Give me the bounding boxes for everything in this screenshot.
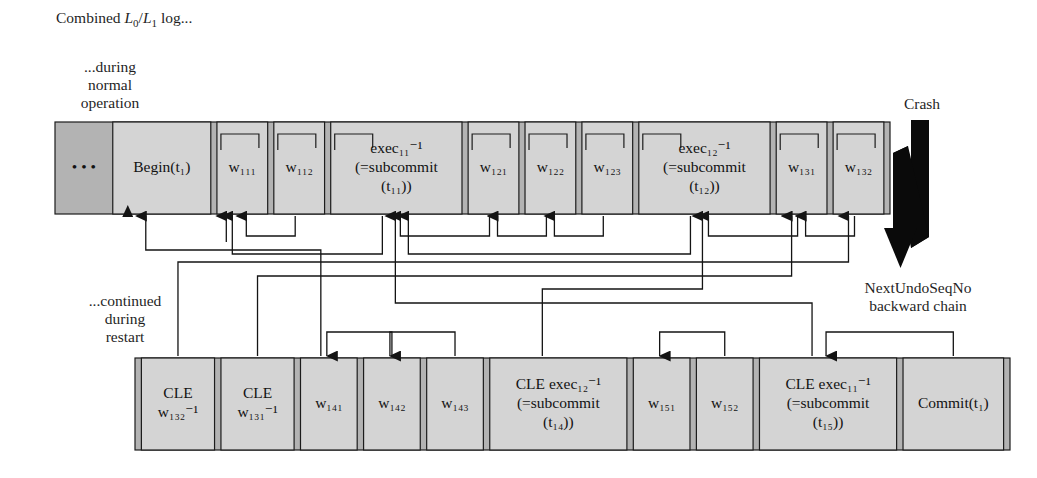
chain-arrow <box>708 216 797 236</box>
log-entry-label: exec₁₂⁻¹ <box>678 139 730 156</box>
caption-l1: L <box>142 9 152 26</box>
log-entry-w152[interactable]: w₁₅₂ <box>696 358 753 450</box>
figure-caption: Combined L0/L1 log... <box>56 9 192 29</box>
svg-text:Combined L0/L1 log...: Combined L0/L1 log... <box>56 9 192 29</box>
chain-arrow-to-begin <box>146 216 321 356</box>
log-entry-begin-t1[interactable]: Begin(t₁) <box>113 122 211 214</box>
log-entry-label: Begin(t₁) <box>133 158 190 176</box>
chain-arrow <box>400 216 489 236</box>
chain-arrow <box>554 216 603 236</box>
combined-log-diagram: Combined L0/L1 log... ...during normal o… <box>0 0 1037 478</box>
log-entry-cle-exec12[interactable]: CLE exec₁₂⁻¹(=subcommit(t₁₄)) <box>490 358 627 450</box>
bottom-log-row: CLEw₁₃₂⁻¹CLEw₁₃₁⁻¹w₁₄₁w₁₄₂w₁₄₃CLE exec₁₂… <box>135 358 1010 450</box>
chain-arrow-down <box>826 332 953 356</box>
log-entry-label: (=subcommit <box>517 394 600 412</box>
log-entry-w143[interactable]: w₁₄₃ <box>427 358 484 450</box>
log-entry-w121[interactable]: w₁₂₁ <box>468 122 519 214</box>
chain-arrow-down <box>660 332 725 356</box>
log-entry-exec12[interactable]: exec₁₂⁻¹(=subcommit(t₁₂)) <box>639 122 770 214</box>
log-entry-cle-w131[interactable]: CLEw₁₃₁⁻¹ <box>221 358 294 450</box>
log-entry-w142[interactable]: w₁₄₂ <box>364 358 421 450</box>
log-entry-commit-t1[interactable]: Commit(t₁) <box>903 358 1004 450</box>
log-entry-label: (t₁₄)) <box>543 413 574 431</box>
log-entry-label: (t₁₅)) <box>813 413 844 431</box>
log-entry-label: w₁₄₃ <box>441 394 468 411</box>
log-entry-label: w₁₅₁ <box>648 394 675 411</box>
log-entry-w111[interactable]: w₁₁₁ <box>217 122 268 214</box>
log-entry-label: CLE exec₁₂⁻¹ <box>516 375 602 392</box>
log-entry-label: w₁₂₂ <box>537 158 564 175</box>
annotation-restart: ...continued during restart <box>89 292 162 345</box>
chain-label-line-2: backward chain <box>869 297 967 314</box>
top-log-row: • • •Begin(t₁)w₁₁₁w₁₁₂exec₁₁⁻¹(=subcommi… <box>55 122 890 214</box>
log-entry-label: CLE <box>163 384 192 401</box>
log-entry-w132[interactable]: w₁₃₂ <box>833 122 884 214</box>
chain-arrow-crossrow <box>542 216 702 356</box>
chain-arrow-crossrow <box>258 216 792 356</box>
log-entry-label: w₁₃₁ <box>788 158 815 175</box>
log-entry-label: CLE <box>243 384 272 401</box>
normal-line-1: ...during <box>84 58 136 75</box>
log-entry-label: Commit(t₁) <box>918 394 989 412</box>
log-entry-label: w₁₅₂ <box>711 394 738 411</box>
log-entry-label: w₁₁₂ <box>285 158 312 175</box>
caption-l0: L <box>123 9 133 26</box>
log-entry-label: w₁₄₁ <box>315 394 342 411</box>
log-entry-label: CLE exec₁₁⁻¹ <box>785 375 871 392</box>
log-entry-w141[interactable]: w₁₄₁ <box>300 358 357 450</box>
chain-arrow-crossrow <box>178 216 849 356</box>
chain-arrow-crossrow <box>395 216 812 356</box>
crash-arrowhead-icon <box>884 228 917 268</box>
log-entry-label: (t₁₁)) <box>381 177 412 195</box>
log-entry-label: exec₁₁⁻¹ <box>370 139 422 156</box>
normal-line-2: normal <box>88 76 132 93</box>
normal-line-3: operation <box>81 94 140 111</box>
log-entry-label: w₁₂₁ <box>480 158 507 175</box>
chain-arrow <box>806 216 855 236</box>
nextundoseqno-chain-arrows <box>128 216 954 356</box>
log-entry-label: (t₁₂)) <box>689 177 720 195</box>
chain-arrow-long <box>232 216 382 254</box>
log-entry-label: w₁₂₃ <box>594 158 621 175</box>
log-entry-w112[interactable]: w₁₁₂ <box>274 122 325 214</box>
chain-arrow-down <box>327 332 392 356</box>
chain-arrow-down <box>390 332 455 356</box>
annotation-normal-operation: ...during normal operation <box>81 58 140 111</box>
log-entry-label: w₁₁₁ <box>229 158 256 175</box>
log-entry-label: w₁₃₂⁻¹ <box>158 403 199 420</box>
log-entry-label: (=subcommit <box>787 394 870 412</box>
log-entry-label: (=subcommit <box>355 158 438 176</box>
log-entry-label: (=subcommit <box>663 158 746 176</box>
caption-prefix: Combined <box>56 9 124 26</box>
log-entry-w151[interactable]: w₁₅₁ <box>633 358 690 450</box>
chain-arrow <box>498 216 547 236</box>
log-entry-w131[interactable]: w₁₃₁ <box>776 122 827 214</box>
log-entry-w123[interactable]: w₁₂₃ <box>582 122 633 214</box>
log-entry-label: w₁₃₂ <box>845 158 872 175</box>
log-entry-label: w₁₃₁⁻¹ <box>237 403 278 420</box>
log-entry-ellipsis[interactable]: • • • <box>72 158 96 175</box>
log-entry-w122[interactable]: w₁₂₂ <box>525 122 576 214</box>
chain-label-line-1: NextUndoSeqNo <box>865 279 972 296</box>
log-entry-label: • • • <box>72 158 96 175</box>
chain-arrow-long <box>408 216 690 254</box>
log-entry-cle-w132[interactable]: CLEw₁₃₂⁻¹ <box>141 358 214 450</box>
restart-line-1: ...continued <box>89 292 162 309</box>
log-entry-label: w₁₄₂ <box>378 394 405 411</box>
log-entry-exec11[interactable]: exec₁₁⁻¹(=subcommit(t₁₁)) <box>331 122 462 214</box>
crash-label: Crash <box>904 95 940 112</box>
log-entry-cle-exec11[interactable]: CLE exec₁₁⁻¹(=subcommit(t₁₅)) <box>759 358 896 450</box>
restart-line-3: restart <box>106 328 145 345</box>
restart-line-2: during <box>105 310 146 327</box>
caption-suffix: log... <box>157 9 192 26</box>
chain-arrow <box>246 216 295 236</box>
crash-bolt-shaft-icon <box>893 146 908 228</box>
